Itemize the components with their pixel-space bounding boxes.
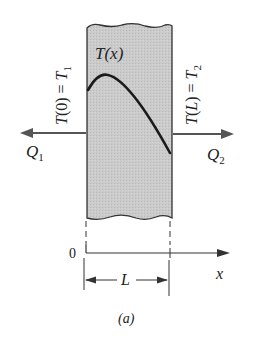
heat-label-left: Q1 <box>26 142 44 163</box>
origin-label: 0 <box>69 246 76 261</box>
right-boundary-label: T(L) = T2 <box>183 65 203 125</box>
slab-heat-conduction-diagram: T(x) T(0) = T1 T(L) = T2 Q1 Q2 0 x <box>0 0 257 344</box>
heat-flow-arrow-left <box>20 128 86 138</box>
x-axis <box>86 245 230 258</box>
figure-caption: (a) <box>118 311 135 327</box>
heat-label-right: Q2 <box>207 145 225 166</box>
svg-text:T(L) = T2: T(L) = T2 <box>183 65 203 125</box>
x-axis-label: x <box>215 265 223 282</box>
curve-label: T(x) <box>95 44 124 63</box>
length-label: L <box>120 271 130 288</box>
left-boundary-label: T(0) = T1 <box>53 66 73 125</box>
svg-text:T(0) = T1: T(0) = T1 <box>53 66 73 125</box>
heat-flow-arrow-right <box>173 129 234 139</box>
